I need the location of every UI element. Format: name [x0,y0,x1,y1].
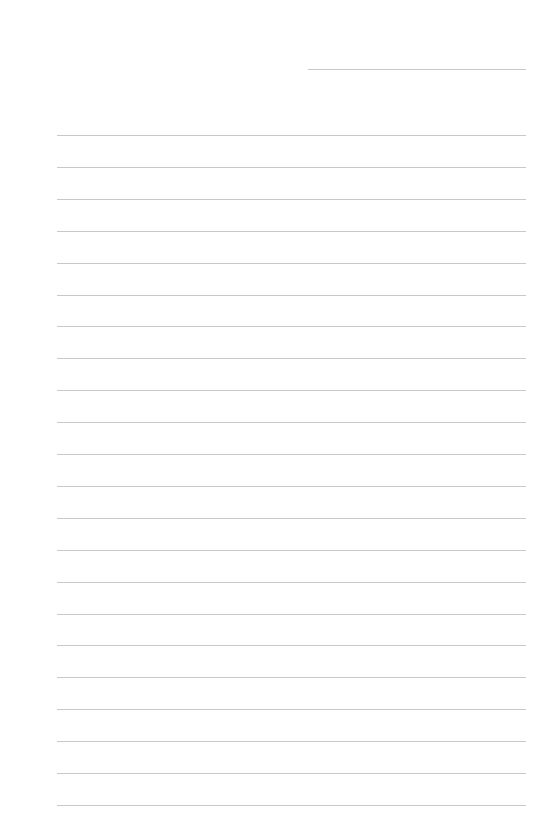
ruled-line [57,582,526,583]
ruled-line [57,709,526,710]
ruled-line [57,454,526,455]
ruled-line [57,773,526,774]
ruled-line [57,486,526,487]
ruled-line [57,358,526,359]
ruled-line [57,390,526,391]
ruled-line [57,263,526,264]
ruled-line [57,135,526,136]
ruled-line [57,614,526,615]
ruled-line [57,518,526,519]
ruled-line [57,805,526,806]
ruled-line [57,645,526,646]
ruled-line [57,326,526,327]
ruled-line [57,231,526,232]
ruled-line [57,550,526,551]
ruled-line [57,295,526,296]
ruled-line [57,677,526,678]
ruled-line [57,741,526,742]
ruled-line [57,199,526,200]
name-date-line [308,69,526,70]
ruled-line [57,167,526,168]
ruled-line [57,422,526,423]
